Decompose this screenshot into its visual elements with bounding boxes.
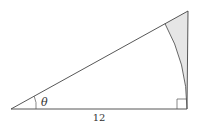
- side-length-label: 12: [93, 112, 106, 123]
- right-angle-marker: [177, 99, 187, 109]
- hypotenuse: [11, 11, 188, 109]
- shaded-region: [165, 11, 188, 109]
- triangle-diagram: θ 12: [0, 0, 199, 127]
- angle-arc: [34, 96, 36, 109]
- angle-label: θ: [41, 96, 48, 109]
